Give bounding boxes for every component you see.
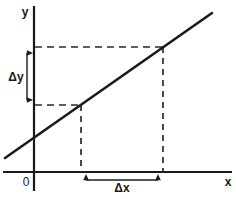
origin-label: 0 (23, 175, 30, 189)
slope-diagram-canvas: y x 0 Δy Δx (0, 0, 236, 199)
labels-group: y x 0 Δy Δx (8, 5, 231, 195)
axes-group (3, 6, 232, 191)
x-axis-label: x (225, 175, 232, 189)
delta-x-label: Δx (114, 181, 130, 195)
delta-y-label: Δy (8, 70, 24, 84)
y-axis-label: y (22, 5, 29, 19)
guide-lines-group (35, 47, 164, 172)
slope-diagram-figure: y x 0 Δy Δx (0, 0, 236, 199)
data-line-group (5, 13, 212, 158)
straight-line-series (5, 13, 212, 158)
